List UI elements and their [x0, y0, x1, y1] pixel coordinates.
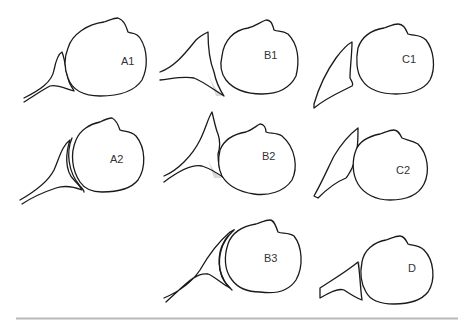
label-c1: C1: [402, 53, 416, 65]
label-c2: C2: [396, 164, 410, 176]
spike-d: [320, 262, 362, 300]
label-b1: B1: [264, 49, 277, 61]
panel-c1: C1: [314, 24, 433, 108]
label-d: D: [408, 262, 416, 274]
diagram-canvas: A1 B1 C1 A2 B2 C2 B3: [0, 0, 458, 320]
head-b1: [221, 20, 298, 94]
panel-b1: B1: [160, 20, 298, 96]
spike-c2: [314, 128, 358, 198]
panel-a1: A1: [24, 18, 146, 102]
spike-b3: [164, 230, 234, 302]
head-a2: [73, 118, 144, 192]
head-c2: [353, 130, 427, 200]
label-a2: A2: [110, 153, 123, 165]
head-c1: [357, 24, 434, 94]
label-a1: A1: [121, 55, 134, 67]
panel-b2: B2: [164, 112, 295, 194]
panel-a2: A2: [20, 118, 144, 204]
panel-d: D: [320, 236, 433, 304]
label-b2: B2: [262, 150, 275, 162]
panel-c2: C2: [314, 128, 427, 200]
spike-c1: [314, 42, 353, 108]
panel-b3: B3: [164, 220, 301, 302]
spike-b2: [164, 112, 224, 182]
head-d: [361, 236, 433, 304]
label-b3: B3: [264, 252, 277, 264]
head-b2: [219, 124, 296, 194]
